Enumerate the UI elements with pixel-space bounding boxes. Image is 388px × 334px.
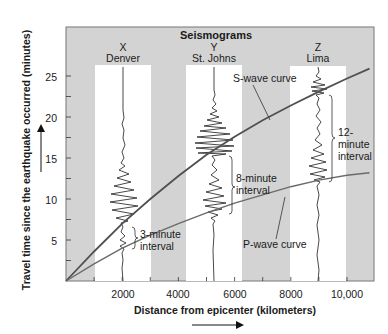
station-x-name: Denver — [106, 52, 140, 64]
xtick-10000: 10,000 — [331, 288, 363, 300]
chart-title: Seismograms — [180, 29, 252, 41]
interval-3-label-1: 3-minute — [140, 228, 181, 240]
station-y-name: St. Johns — [192, 52, 236, 64]
ytick-20: 20 — [45, 112, 57, 124]
interval-8-label-1: 8-minute — [236, 172, 277, 184]
ytick-25: 25 — [45, 71, 57, 83]
p-curve-label: P-wave curve — [243, 238, 307, 250]
station-z-name: Lima — [307, 52, 330, 64]
seismogram-chart: Seismograms X Denver Y St. Johns Z Lima … — [0, 0, 388, 334]
xtick-4000: 4000 — [166, 288, 190, 300]
xtick-8000: 8000 — [279, 288, 303, 300]
interval-8-label-2: interval — [236, 184, 270, 196]
interval-3-label-2: interval — [140, 240, 174, 252]
s-curve-label: S-wave curve — [233, 72, 297, 84]
xtick-2000: 2000 — [111, 288, 135, 300]
interval-12-label-1: 12- — [338, 126, 354, 138]
ytick-15: 15 — [45, 153, 57, 165]
xtick-6000: 6000 — [223, 288, 247, 300]
ytick-10: 10 — [45, 194, 57, 206]
y-axis-title: Travel time since the earthquake occurre… — [20, 30, 32, 290]
interval-12-label-2: minute — [338, 138, 370, 150]
x-axis-title: Distance from epicenter (kilometers) — [134, 304, 316, 316]
ytick-5: 5 — [51, 235, 57, 247]
interval-12-label-3: interval — [338, 150, 372, 162]
